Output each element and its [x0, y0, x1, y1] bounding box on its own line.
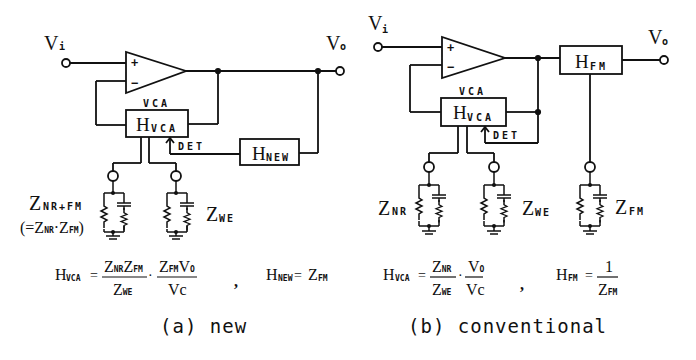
vi-terminal-b: [374, 43, 382, 51]
svg-text:FM: FM: [629, 206, 645, 217]
z-fm-label: Z: [615, 196, 627, 218]
svg-text:+: +: [447, 41, 454, 55]
svg-text:o: o: [340, 41, 346, 52]
z-we-network-a: [164, 181, 194, 239]
svg-text:ZWE: ZWE: [432, 281, 452, 298]
svg-text:ZNRZFM: ZNRZFM: [104, 258, 143, 275]
vo-terminal-b: [660, 56, 668, 64]
svg-text:Z: Z: [308, 266, 318, 283]
minus-sign: −: [131, 76, 138, 90]
svg-text:FM: FM: [568, 274, 578, 283]
svg-text:Vc: Vc: [168, 281, 187, 298]
svg-text:−: −: [447, 60, 454, 74]
z-fm-network: [577, 172, 607, 234]
vca-label-b: VCA: [459, 86, 486, 97]
svg-text:i: i: [382, 24, 388, 35]
svg-text:NR: NR: [392, 206, 408, 217]
hfm-label: H: [575, 51, 589, 72]
svg-text:FM: FM: [590, 61, 608, 72]
z-nr-label: Z: [378, 197, 390, 219]
svg-text:WE: WE: [535, 207, 551, 218]
vi-label-b: V: [368, 12, 383, 34]
svg-text:NR+FM: NR+FM: [43, 201, 83, 212]
vi-label: V: [44, 32, 59, 54]
vca-label: VCA: [143, 98, 170, 109]
svg-text:NEW: NEW: [278, 274, 293, 283]
vo-terminal: [336, 67, 344, 75]
svg-text:·: ·: [148, 268, 153, 283]
svg-text:=: =: [90, 268, 98, 283]
svg-text:,: ,: [520, 276, 524, 293]
equation-b: H VCA = ZNR ZWE · VO Vc , H FM = 1 ZFM: [383, 258, 618, 298]
svg-text:FM: FM: [318, 274, 328, 283]
svg-text:·: ·: [458, 268, 463, 283]
z-we-network-b: [481, 172, 511, 234]
svg-text:VO: VO: [468, 258, 485, 275]
vi-terminal: [62, 59, 70, 67]
hvca-label: H: [136, 114, 150, 135]
det-label: DET: [178, 141, 205, 152]
panel-b-labels: V i V o + − VCA H VCA DET H FM Z NR Z WE…: [368, 12, 668, 298]
svg-text:i: i: [59, 41, 65, 52]
svg-text:o: o: [662, 36, 668, 47]
det-label-b: DET: [493, 130, 520, 141]
z-we-label-b: Z: [522, 197, 534, 219]
svg-text:1: 1: [605, 258, 613, 275]
z-nr-network: [416, 172, 446, 234]
svg-text:H: H: [383, 266, 395, 283]
svg-text:H: H: [556, 266, 568, 283]
svg-text:=: =: [418, 268, 426, 283]
svg-text:ZWE: ZWE: [113, 281, 133, 298]
svg-text:WE: WE: [219, 213, 235, 224]
svg-text:VCA: VCA: [395, 274, 410, 283]
svg-text:Vc: Vc: [466, 281, 485, 298]
svg-text:ZFMVO: ZFMVO: [159, 258, 195, 275]
z-nr-fm-network: [101, 181, 131, 239]
vo-label-b: V: [648, 26, 663, 48]
z-we-label-a: Z: [206, 203, 218, 225]
svg-text:ZNR: ZNR: [432, 258, 452, 275]
plus-sign: +: [131, 56, 138, 70]
svg-text:NEW: NEW: [266, 152, 290, 163]
svg-text:=: =: [585, 268, 593, 283]
svg-text:VCA: VCA: [151, 123, 178, 134]
svg-text:=: =: [294, 268, 302, 283]
svg-text:H: H: [266, 266, 278, 283]
svg-text:ZFM: ZFM: [598, 281, 618, 298]
svg-text:VCA: VCA: [66, 274, 81, 283]
hnew-label: H: [252, 143, 266, 164]
z-nr-fm-label: Z: [29, 192, 41, 214]
circuit-diagram: V i V o + − VCA H VCA DET H NEW Z NR+FM …: [0, 0, 696, 360]
caption-b: (b) conventional: [408, 315, 607, 337]
svg-text:,: ,: [234, 273, 238, 290]
equation-a: H VCA = ZNRZFM ZWE · ZFMVO Vc , H NEW = …: [55, 258, 328, 298]
z-nr-fm-alt-label: (=ZNR·ZFM): [20, 219, 84, 237]
vo-label: V: [326, 32, 341, 54]
caption-a: (a) new: [160, 315, 247, 337]
hvca-label-b: H: [453, 102, 467, 123]
svg-text:VCA: VCA: [467, 112, 494, 123]
